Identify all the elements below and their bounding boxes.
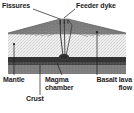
volcano-cross-section-figure: Fissures Feeder dyke Mantle Magma chambe… (0, 0, 134, 113)
diagram-svg (8, 13, 126, 74)
label-feeder-dyke: Feeder dyke (76, 2, 116, 10)
mantle-lower-tone (8, 65, 126, 74)
label-crust: Crust (26, 95, 44, 103)
label-magma-chamber: Magma chamber (45, 76, 73, 92)
magma-chamber (59, 54, 69, 60)
crust-tint (8, 33, 126, 57)
label-basalt-lava-flow: Basalt lava flow (86, 76, 132, 92)
diagram-artwork (8, 13, 126, 74)
label-fissures: Fissures (2, 2, 30, 10)
label-mantle: Mantle (3, 76, 25, 84)
